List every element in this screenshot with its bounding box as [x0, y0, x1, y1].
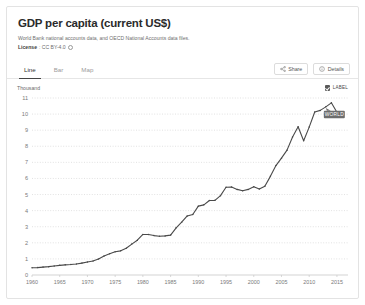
share-label: Share: [288, 66, 302, 72]
share-button[interactable]: Share: [274, 63, 309, 75]
y-tick-label: 5: [25, 192, 28, 198]
series-point: [175, 227, 177, 229]
series-point: [59, 265, 61, 267]
y-axis-unit-label: Thousand: [17, 85, 40, 91]
label-toggle[interactable]: LABEL: [325, 85, 348, 91]
info-icon[interactable]: [68, 45, 73, 50]
series-point: [131, 243, 133, 245]
series-point: [114, 251, 116, 253]
y-tick-label: 0: [25, 272, 28, 278]
x-tick-label: 2015: [331, 279, 343, 285]
series-point: [98, 258, 100, 260]
series-point: [153, 235, 155, 237]
y-tick-label: 4: [25, 208, 28, 214]
view-tabs: Line Bar Map Share Detail: [7, 59, 358, 79]
series-point: [148, 234, 150, 236]
chart-card: GDP per capita (current US$) World Bank …: [6, 6, 359, 299]
series-point: [53, 265, 55, 267]
series-point: [31, 267, 33, 269]
series-point: [87, 261, 89, 263]
x-tick-label: 1980: [137, 279, 149, 285]
license-value: : CC BY-4.0: [39, 44, 66, 51]
x-tick-label: 1960: [26, 279, 38, 285]
series-point: [308, 126, 310, 128]
info-circle-icon: [319, 66, 325, 72]
series-point: [70, 264, 72, 266]
series-point: [253, 186, 255, 188]
series-point: [198, 205, 200, 207]
series-point: [236, 189, 238, 191]
x-tick-label: 1975: [109, 279, 121, 285]
y-tick-label: 9: [25, 127, 28, 133]
series-point: [120, 250, 122, 252]
series-point: [76, 263, 78, 265]
license-row: License : CC BY-4.0: [18, 44, 347, 51]
series-point: [270, 176, 272, 178]
y-tick-label: 3: [25, 224, 28, 230]
series-label-badge: WORLD: [324, 108, 345, 118]
x-tick-label: 1990: [192, 279, 204, 285]
share-icon: [280, 66, 286, 72]
series-point: [48, 266, 50, 268]
x-tick-label: 1970: [81, 279, 93, 285]
series-point: [65, 264, 67, 266]
series-point: [325, 106, 327, 108]
checkbox-icon[interactable]: [325, 85, 331, 91]
series-point: [264, 185, 266, 187]
series-point: [297, 126, 299, 128]
y-tick-label: 2: [25, 240, 28, 246]
y-tick-label: 6: [25, 175, 28, 181]
series-point: [259, 188, 261, 190]
series-point: [159, 235, 161, 237]
y-tick-label: 10: [22, 111, 28, 117]
chart-area: Thousand LABEL 0123456789101119601965197…: [15, 85, 350, 291]
tab-bar[interactable]: Bar: [45, 66, 73, 78]
series-label-text: WORLD: [325, 112, 345, 117]
series-point: [247, 189, 249, 191]
x-tick-label: 1995: [220, 279, 232, 285]
series-point: [286, 149, 288, 151]
plot-svg[interactable]: 0123456789101119601965197019751980198519…: [15, 94, 352, 291]
series-point: [125, 248, 127, 250]
series-point: [209, 200, 211, 202]
x-tick-label: 2005: [275, 279, 287, 285]
series-point: [203, 204, 205, 206]
line-plot[interactable]: 0123456789101119601965197019751980198519…: [15, 94, 350, 291]
series-point: [137, 239, 139, 241]
label-toggle-text: LABEL: [333, 85, 348, 90]
series-point: [81, 262, 83, 264]
series-point: [142, 234, 144, 236]
card-header: GDP per capita (current US$) World Bank …: [7, 7, 358, 51]
page-title: GDP per capita (current US$): [18, 16, 347, 30]
tab-line[interactable]: Line: [15, 66, 45, 78]
series-point: [170, 234, 172, 236]
series-point: [314, 111, 316, 113]
series-point: [242, 190, 244, 192]
series-point: [225, 187, 227, 189]
y-tick-label: 11: [22, 95, 28, 101]
series-point: [292, 136, 294, 138]
y-tick-label: 7: [25, 159, 28, 165]
series-point: [181, 221, 183, 223]
series-point: [281, 157, 283, 159]
data-source-subtitle: World Bank national accounts data, and O…: [18, 35, 347, 42]
details-button[interactable]: Details: [313, 63, 350, 75]
series-line: [32, 103, 342, 268]
y-tick-label: 1: [25, 256, 28, 262]
tab-actions: Share Details: [274, 63, 350, 78]
series-point: [186, 215, 188, 217]
x-tick-label: 1985: [165, 279, 177, 285]
series-point: [192, 214, 194, 216]
x-tick-label: 2010: [303, 279, 315, 285]
series-point: [320, 110, 322, 112]
series-point: [231, 186, 233, 188]
tab-map[interactable]: Map: [72, 66, 102, 78]
license-label: License: [18, 44, 37, 51]
y-tick-label: 8: [25, 143, 28, 149]
series-point: [42, 266, 44, 268]
series-point: [164, 235, 166, 237]
x-tick-label: 1965: [54, 279, 66, 285]
series-point: [303, 140, 305, 142]
series-point: [92, 260, 94, 262]
series-point: [103, 255, 105, 257]
